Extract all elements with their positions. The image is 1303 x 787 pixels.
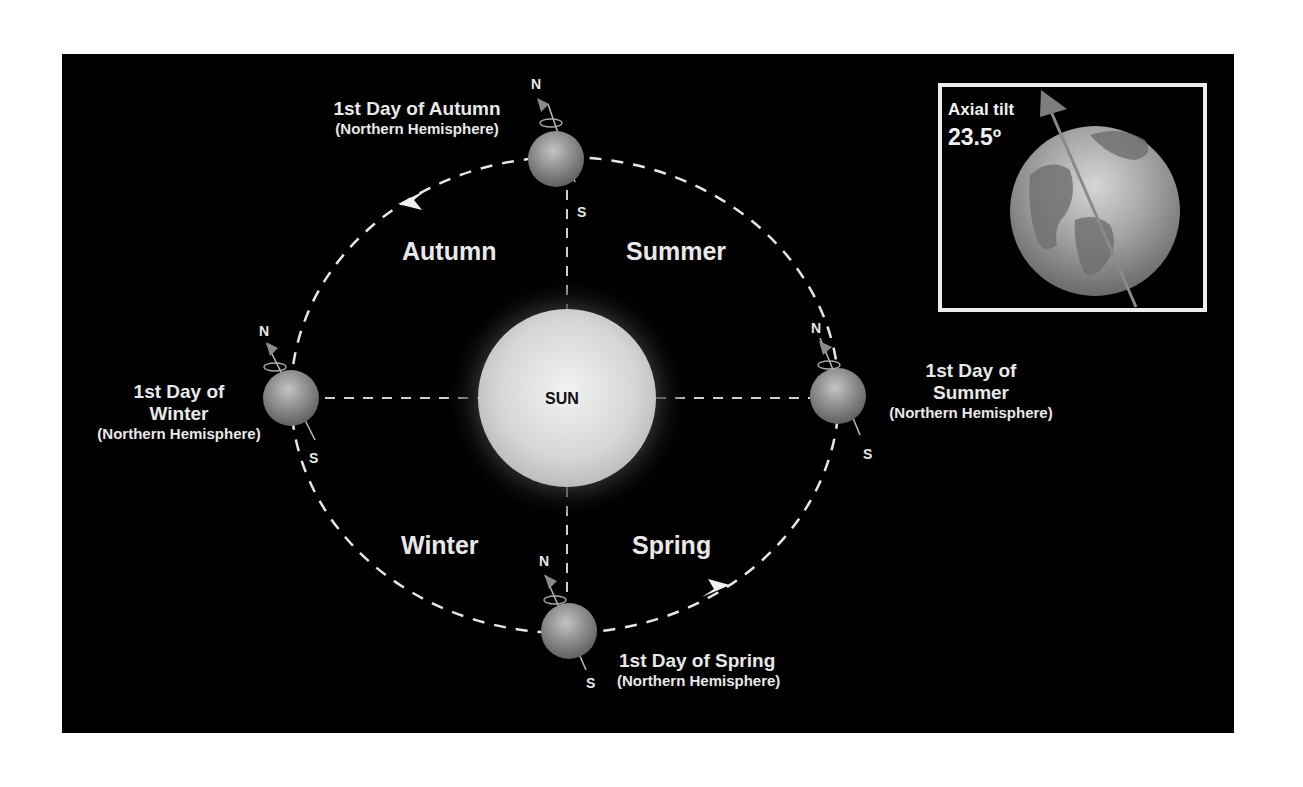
orbit-direction-arrow-top: [398, 190, 426, 210]
winter-north-label: N: [259, 323, 269, 339]
spring-position-label: 1st Day of Spring (Northern Hemisphere): [619, 650, 780, 689]
season-label-autumn: Autumn: [402, 237, 496, 266]
spring-title: 1st Day of Spring: [619, 650, 780, 672]
season-label-summer: Summer: [626, 237, 726, 266]
autumn-position-label: 1st Day of Autumn (Northern Hemisphere): [312, 98, 522, 137]
spring-south-label: S: [586, 675, 595, 691]
summer-position-label: 1st Day of Summer (Northern Hemisphere): [866, 360, 1076, 421]
autumn-south-label: S: [577, 204, 586, 220]
summer-title-line2: Summer: [866, 382, 1076, 404]
winter-position-label: 1st Day of Winter (Northern Hemisphere): [74, 381, 284, 442]
axial-tilt-title: Axial tilt: [948, 100, 1014, 120]
summer-north-label: N: [811, 320, 821, 336]
season-label-spring: Spring: [632, 531, 711, 560]
autumn-title: 1st Day of Autumn: [312, 98, 522, 120]
sun-label: SUN: [545, 390, 579, 408]
summer-subtitle: (Northern Hemisphere): [866, 404, 1076, 421]
winter-title-line2: Winter: [74, 403, 284, 425]
earth-summer: [810, 338, 866, 435]
winter-south-label: S: [309, 450, 318, 466]
axial-tilt-value: 23.5º: [948, 124, 1001, 151]
winter-subtitle: (Northern Hemisphere): [74, 425, 284, 442]
earth-autumn: [528, 98, 584, 187]
autumn-north-label: N: [531, 76, 541, 92]
season-label-winter: Winter: [401, 531, 479, 560]
spring-subtitle: (Northern Hemisphere): [617, 672, 780, 689]
summer-title-line1: 1st Day of: [866, 360, 1076, 382]
winter-title-line1: 1st Day of: [74, 381, 284, 403]
earth-spring: [541, 575, 597, 670]
spring-north-label: N: [539, 553, 549, 569]
autumn-subtitle: (Northern Hemisphere): [312, 120, 522, 137]
summer-south-label: S: [863, 446, 872, 462]
